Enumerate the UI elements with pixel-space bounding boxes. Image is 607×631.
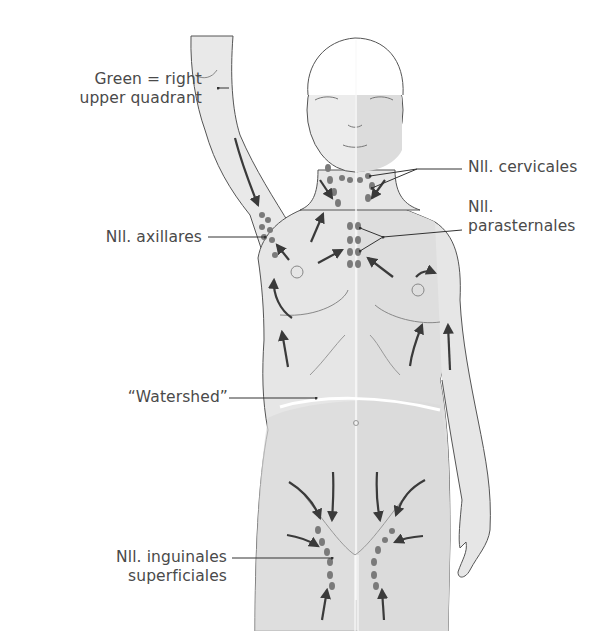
- lymph-drainage-diagram: Green = right upper quadrant Nll. cervic…: [0, 0, 607, 631]
- label-line: Nll.: [468, 198, 576, 217]
- label-right-upper-quadrant: Green = right upper quadrant: [40, 70, 202, 108]
- label-line: parasternales: [468, 217, 576, 236]
- label-watershed: “Watershed”: [80, 388, 228, 407]
- label-parasternales: Nll. parasternales: [468, 198, 576, 236]
- label-cervicales: Nll. cervicales: [468, 158, 577, 177]
- label-axillares: Nll. axillares: [60, 228, 202, 247]
- label-line: upper quadrant: [40, 89, 202, 108]
- label-line: Green = right: [40, 70, 202, 89]
- label-line: Nll. inguinales: [30, 548, 227, 567]
- label-inguinales: Nll. inguinales superficiales: [30, 548, 227, 586]
- label-line: superficiales: [30, 567, 227, 586]
